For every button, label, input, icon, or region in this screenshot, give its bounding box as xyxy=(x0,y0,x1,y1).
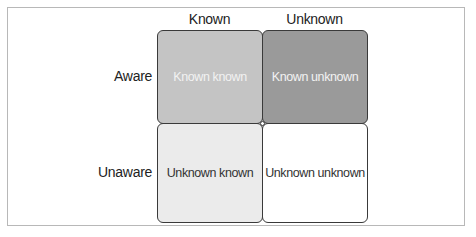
cell-known-known: Known known xyxy=(157,30,263,124)
cell-label: Known known xyxy=(173,70,246,84)
row-label-aware: Aware xyxy=(52,68,152,84)
cell-label: Unknown known xyxy=(167,166,254,180)
cell-unknown-unknown: Unknown unknown xyxy=(262,123,368,223)
cell-unknown-known: Unknown known xyxy=(157,123,263,223)
cell-label: Known unknown xyxy=(272,70,359,84)
row-label-unaware: Unaware xyxy=(52,164,152,180)
cell-known-unknown: Known unknown xyxy=(262,30,368,124)
column-label-unknown: Unknown xyxy=(262,11,367,27)
grid-center-node xyxy=(260,121,265,126)
column-label-known: Known xyxy=(157,11,262,27)
cell-label: Unknown unknown xyxy=(265,166,365,180)
